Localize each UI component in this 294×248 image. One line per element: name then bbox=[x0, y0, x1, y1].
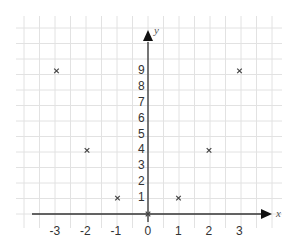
grid-lines bbox=[16, 16, 282, 228]
y-tick-label: 3 bbox=[138, 158, 145, 172]
x-tick-label: -3 bbox=[50, 224, 61, 238]
x-axis-arrow-icon bbox=[261, 209, 272, 219]
y-tick-label: 2 bbox=[138, 174, 145, 188]
x-axis-label: x bbox=[276, 207, 281, 219]
y-axis-label: y bbox=[154, 24, 159, 36]
y-tick-label: 1 bbox=[138, 190, 145, 204]
x-tick-label: -1 bbox=[111, 224, 122, 238]
scatter-plot bbox=[0, 0, 294, 248]
x-tick-label: -2 bbox=[80, 224, 91, 238]
x-tick-label: 2 bbox=[206, 224, 213, 238]
x-tick-label: 3 bbox=[236, 224, 243, 238]
y-tick-label: 9 bbox=[138, 63, 145, 77]
y-tick-label: 5 bbox=[138, 127, 145, 141]
y-axis-arrow-icon bbox=[143, 30, 153, 41]
x-tick-label: 0 bbox=[145, 224, 152, 238]
y-tick-label: 8 bbox=[138, 79, 145, 93]
x-tick-label: 1 bbox=[175, 224, 182, 238]
y-tick-label: 7 bbox=[138, 95, 145, 109]
y-tick-label: 4 bbox=[138, 142, 145, 156]
y-tick-label: 6 bbox=[138, 111, 145, 125]
